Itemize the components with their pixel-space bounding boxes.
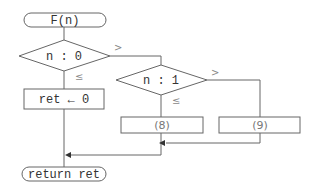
decision2-lte-label: ≤ bbox=[172, 95, 180, 106]
decision1-lte-label: ≤ bbox=[75, 71, 83, 82]
blank8-label: (8) bbox=[154, 119, 170, 132]
decision1-greater-label: > bbox=[114, 42, 122, 53]
connector-blank8-merge bbox=[70, 133, 161, 155]
process1-label: ret ← 0 bbox=[39, 93, 89, 107]
process-ret-zero: ret ← 0 bbox=[24, 89, 104, 109]
flowchart-diagram: F(n) n : 0 > ≤ ret ← 0 n : 1 > ≤ (8) (9)… bbox=[0, 0, 318, 194]
connector-decision1-decision2 bbox=[110, 56, 161, 65]
arrowhead-merge-left bbox=[65, 152, 71, 158]
decision1-label: n : 0 bbox=[46, 50, 82, 64]
connector-blank9-merge bbox=[166, 133, 260, 143]
end-terminal: return ret bbox=[22, 167, 106, 182]
decision-n-0: n : 0 bbox=[19, 40, 110, 71]
start-terminal: F(n) bbox=[24, 13, 106, 28]
decision2-greater-label: > bbox=[211, 67, 219, 78]
start-label: F(n) bbox=[51, 14, 80, 28]
decision-n-1: n : 1 bbox=[116, 65, 207, 95]
end-label: return ret bbox=[28, 168, 100, 182]
decision2-label: n : 1 bbox=[143, 74, 179, 88]
blank-9-box: (9) bbox=[219, 117, 300, 133]
blank9-label: (9) bbox=[252, 119, 268, 132]
arrowhead-merge-right bbox=[159, 140, 165, 146]
connector-decision2-blank9 bbox=[207, 80, 260, 117]
blank-8-box: (8) bbox=[121, 117, 203, 133]
